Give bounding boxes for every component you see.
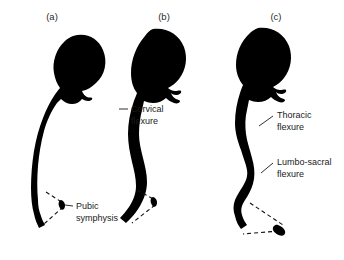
pubic-symphysis-label-line1: Pubic — [76, 201, 99, 211]
panel-label-a: (a) — [46, 11, 58, 22]
panel-label-c: (c) — [270, 11, 281, 22]
cervical-flexure-label-line1: Cervical — [131, 104, 164, 114]
thoracic-flexure-label-line1: Thoracic — [277, 110, 312, 120]
panel-label-b: (b) — [158, 11, 170, 22]
spinal-curvature-figure: (a) (b) Cervical flexure (c) Thoracic fl… — [0, 0, 344, 260]
thoracic-flexure-label-line2: flexure — [277, 122, 304, 132]
cervical-flexure-label-line2: flexure — [131, 116, 158, 126]
pubic-symphysis-label-line2: symphysis — [76, 213, 119, 223]
lumbo-sacral-flexure-label-line2: flexure — [277, 169, 304, 179]
lumbo-sacral-flexure-label-line1: Lumbo-sacral — [277, 157, 332, 167]
